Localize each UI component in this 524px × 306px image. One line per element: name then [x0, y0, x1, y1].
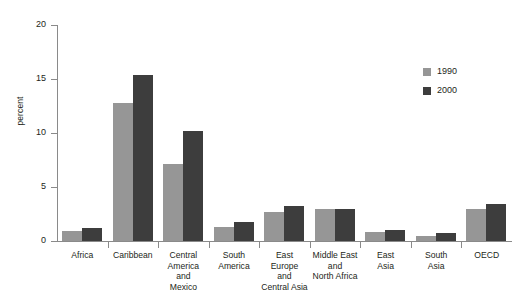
category-label-line: Mexico	[152, 282, 215, 293]
bar-chart-figure: percent 05101520 AfricaCaribbeanCentralA…	[0, 0, 524, 306]
bar-group	[57, 25, 108, 241]
bar-1990	[113, 103, 133, 241]
bar-1990	[62, 231, 82, 241]
y-axis-tick-label: 10	[16, 128, 46, 137]
category-label-line: North Africa	[304, 271, 367, 282]
legend-label: 2000	[437, 86, 457, 95]
x-axis-separator	[209, 242, 210, 248]
legend-label: 1990	[437, 67, 457, 76]
y-axis-title: percent	[15, 71, 25, 151]
legend-item: 2000	[423, 83, 457, 98]
x-axis-separator	[310, 242, 311, 248]
x-axis-separator	[360, 242, 361, 248]
bar-1990	[466, 209, 486, 241]
bar-group	[108, 25, 159, 241]
x-axis-separator	[108, 242, 109, 248]
x-axis-separator	[461, 242, 462, 248]
y-axis-tick-label: 0	[16, 236, 46, 245]
category-label-line: Central Asia	[253, 282, 316, 293]
legend-swatch-icon	[423, 68, 431, 76]
bar-2000	[82, 228, 102, 241]
category-label-line: OECD	[455, 250, 518, 261]
bar-1990	[214, 227, 234, 241]
legend-swatch-icon	[423, 87, 431, 95]
x-axis-separator	[259, 242, 260, 248]
legend-item: 1990	[423, 64, 457, 79]
bar-group	[209, 25, 260, 241]
bar-2000	[385, 230, 405, 241]
plot-area	[57, 25, 512, 241]
category-label-line: Asia	[405, 261, 468, 272]
bar-2000	[436, 233, 456, 241]
bar-1990	[315, 209, 335, 241]
category-label-line: and	[152, 271, 215, 282]
bar-2000	[486, 204, 506, 241]
bar-2000	[234, 222, 254, 241]
bar-2000	[284, 206, 304, 241]
y-axis-tick-label: 15	[16, 74, 46, 83]
bar-group	[461, 25, 512, 241]
bar-1990	[163, 164, 183, 241]
x-axis-line	[57, 241, 512, 242]
category-label: OECD	[455, 250, 518, 261]
bar-2000	[183, 131, 203, 241]
x-axis-separator	[411, 242, 412, 248]
bar-1990	[264, 212, 284, 241]
bar-2000	[335, 209, 355, 241]
bar-group	[158, 25, 209, 241]
bar-group	[411, 25, 462, 241]
chart-legend: 19902000	[423, 64, 457, 102]
y-axis-tick-label: 20	[16, 20, 46, 29]
y-axis-tick-label: 5	[16, 182, 46, 191]
bar-2000	[133, 75, 153, 241]
x-axis-separator	[158, 242, 159, 248]
bar-group	[360, 25, 411, 241]
bar-1990	[365, 232, 385, 241]
bar-group	[259, 25, 310, 241]
bar-group	[310, 25, 361, 241]
